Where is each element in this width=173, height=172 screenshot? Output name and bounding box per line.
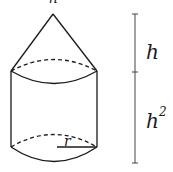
- top-ellipse: [11, 60, 97, 84]
- cone-cylinder-diagram: h r h h 2: [0, 0, 173, 172]
- bottom-ellipse: [11, 135, 97, 162]
- height-measure: [132, 14, 138, 163]
- cone: [11, 14, 97, 71]
- top-partial-label: h: [49, 0, 58, 6]
- cylinder: [11, 71, 97, 147]
- cylinder-height-label: h: [146, 109, 159, 133]
- bottom-ellipse-back-dashed: [11, 135, 97, 148]
- top-ellipse-front: [11, 71, 97, 84]
- bottom-ellipse-front: [11, 147, 97, 162]
- top-ellipse-back-dashed: [11, 60, 97, 72]
- cone-height-label: h: [146, 40, 159, 64]
- cylinder-height-exponent: 2: [158, 105, 167, 119]
